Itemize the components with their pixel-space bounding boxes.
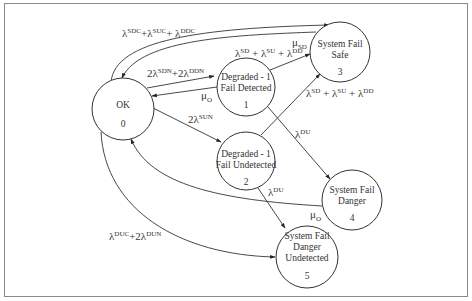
state-4-number: 4 [350,213,355,223]
edge-label-0-to-3: λSDC+λSUC+ λDDC [122,27,196,39]
state-2-label-line1: Degraded - 1 [221,149,271,159]
edge-label-1-to-0: μO [201,89,212,104]
state-5-label-line2: Danger [293,242,322,252]
edge-label-1-to-4: λDU [295,128,310,140]
state-node-2: Degraded - 1 Fail Undetected 2 [216,132,277,190]
state-1-label-line1: Degraded - 1 [221,72,271,82]
edge-label-0-to-5: λDUC+2λDUN [109,230,161,242]
state-node-1: Degraded - 1 Fail Detected 1 [217,58,275,116]
state-5-number: 5 [305,271,310,281]
edge-label-0-to-1: 2λSDN+2λDDN [147,67,204,79]
edge-label-2-to-5: λDU [268,186,283,198]
state-3-number: 3 [338,67,343,77]
state-transition-diagram: OK 0 Degraded - 1 Fail Detected 1 Degrad… [0,0,472,301]
state-1-label-line2: Fail Detected [221,83,272,93]
edge-label-4-to-0: μO [310,208,321,223]
state-5-label-line1: System Fail [284,231,329,241]
edge-1-to-4 [268,107,330,179]
state-0-number: 0 [121,119,126,129]
state-node-3: System Fail Safe 3 [310,22,370,82]
edge-label-0-to-2: 2λSUN [188,113,213,125]
state-3-label-line1: System Fail [317,39,362,49]
state-node-5: System Fail Danger Undetected 5 [276,226,338,288]
state-1-number: 1 [244,100,249,110]
state-4-label-line1: System Fail [329,185,374,195]
state-5-label-line3: Undetected [285,253,329,263]
state-node-4: System Fail Danger 4 [322,170,382,230]
edge-1-to-0 [152,87,217,96]
edge-label-1-to-3: λSD + λSU + λDD [235,47,302,59]
state-3-label-line2: Safe [332,50,349,60]
state-4-label-line2: Danger [338,196,367,206]
state-2-number: 2 [244,177,249,187]
edge-label-2-to-3: λSD + λSU + λDD [306,87,373,99]
state-2-label-line2: Fail Undetected [216,160,277,170]
state-node-0: OK 0 [92,78,154,140]
state-0-label: OK [116,100,130,110]
